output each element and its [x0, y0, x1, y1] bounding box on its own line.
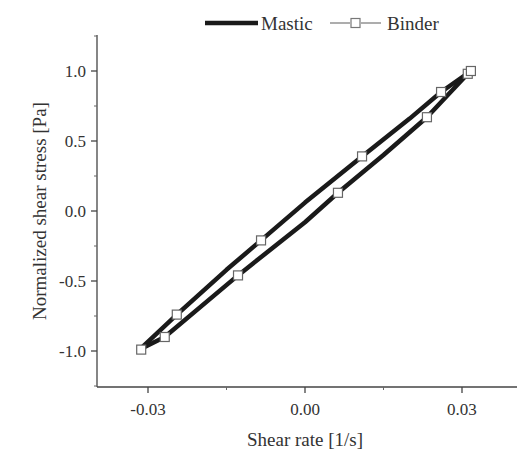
binder-square-marker-icon	[333, 188, 342, 197]
binder-square-marker-icon	[234, 271, 243, 280]
binder-square-marker-icon	[422, 113, 431, 122]
binder-square-marker-icon	[466, 67, 475, 76]
x-axis-title: Shear rate [1/s]	[247, 429, 363, 450]
x-tick-label: 0.00	[290, 400, 320, 419]
mastic-loop-upper	[140, 71, 471, 350]
binder-square-marker-icon	[358, 152, 367, 161]
y-tick-label: 0.5	[65, 132, 86, 151]
mastic-loop-lower	[140, 71, 471, 350]
series	[137, 67, 476, 355]
x-ticks: -0.030.000.03	[130, 387, 477, 419]
y-ticks: 1.00.50.0-0.5-1.0	[59, 36, 97, 386]
legend-binder-marker-icon	[351, 19, 360, 28]
binder-square-marker-icon	[137, 345, 146, 354]
x-tick-label: -0.03	[130, 400, 165, 419]
x-tick-label: 0.03	[447, 400, 477, 419]
legend-mastic-label: Mastic	[261, 13, 313, 34]
legend-binder-label: Binder	[387, 13, 439, 34]
binder-square-marker-icon	[257, 236, 266, 245]
binder-square-marker-icon	[172, 310, 181, 319]
y-tick-label: -0.5	[59, 272, 86, 291]
binder-markers	[137, 67, 476, 355]
y-axis-title: Normalized shear stress [Pa]	[29, 102, 50, 320]
binder-square-marker-icon	[160, 333, 169, 342]
hysteresis-chart: Mastic Binder 1.00.50.0-0.5-1.0 -0.030.0…	[0, 0, 532, 463]
y-tick-label: -1.0	[59, 342, 86, 361]
binder-square-marker-icon	[437, 88, 446, 97]
y-tick-label: 1.0	[65, 62, 86, 81]
y-tick-label: 0.0	[65, 202, 86, 221]
legend: Mastic Binder	[205, 13, 439, 34]
